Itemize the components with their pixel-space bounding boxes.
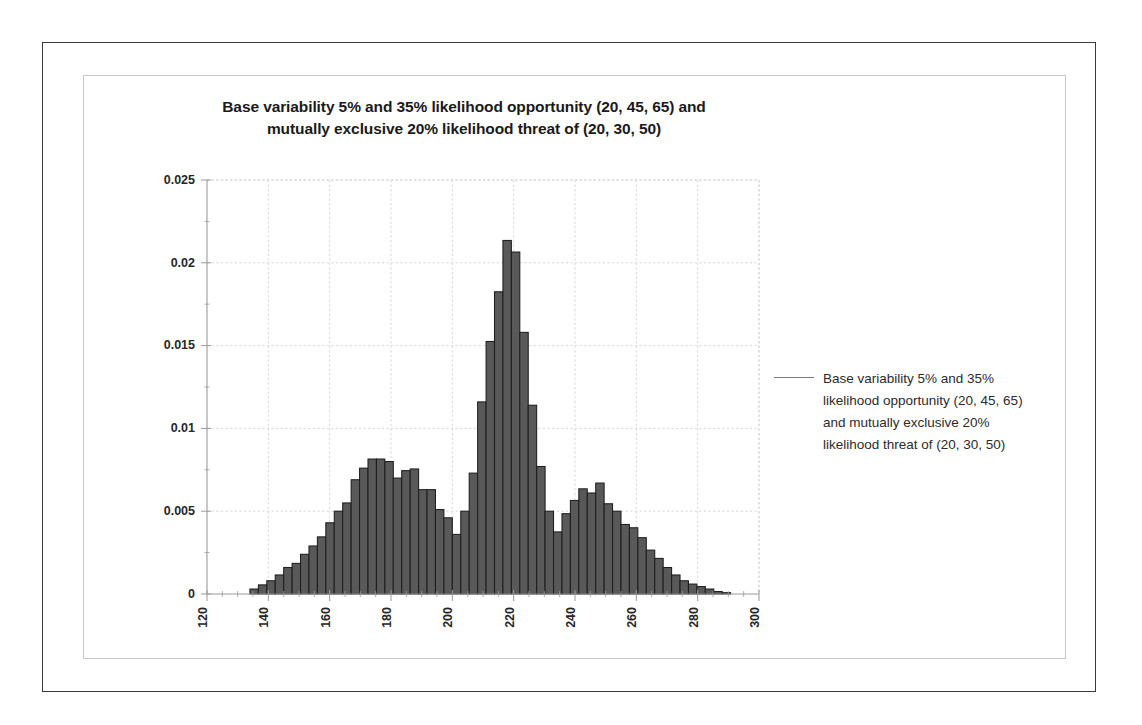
histogram-bar [326,523,334,594]
y-axis-tick-label: 0.015 [164,338,195,352]
histogram-bar [705,589,713,594]
histogram-bar [469,473,477,594]
x-axis-tick-label: 180 [380,607,394,628]
y-axis-tick-label: 0 [188,587,195,601]
chart-container: Base variability 5% and 35% likelihood o… [83,75,1066,659]
x-axis-tick-label: 260 [625,607,639,628]
histogram-bars [250,240,731,594]
histogram-bar [402,471,410,594]
histogram-bar [393,478,401,594]
histogram-bar [334,511,342,594]
x-axis-tick-label: 160 [319,607,333,628]
histogram-bar [638,538,646,594]
histogram-bar [587,493,595,594]
histogram-bar [461,511,469,594]
x-axis-tick-label: 240 [564,607,578,628]
histogram-bar [376,459,384,594]
histogram-bar [360,468,368,594]
y-axis-tick-label: 0.01 [171,421,195,435]
histogram-bar [528,405,536,594]
histogram-bar [554,532,562,594]
histogram-bar [688,584,696,594]
histogram-bar [275,575,283,594]
histogram-bar [596,483,604,594]
y-axis-tick-label: 0.005 [164,504,195,518]
histogram-bar [452,534,460,594]
y-axis-tick-labels: 00.0050.010.0150.020.025 [164,173,195,601]
x-axis-tick-label: 200 [441,607,455,628]
histogram-bar [351,480,359,594]
legend-line-marker [774,377,814,378]
histogram-bar [613,511,621,594]
histogram-bar [435,510,443,594]
x-axis-tick-label: 280 [687,607,701,628]
histogram-bar [579,489,587,594]
x-axis-tick-label: 120 [196,607,210,628]
histogram-bar [419,490,427,594]
histogram-bar [368,459,376,594]
histogram-bar [520,332,528,594]
histogram-bar [444,518,452,594]
chart-legend: Base variability 5% and 35% likelihood o… [774,368,1054,455]
histogram-bar [545,511,553,594]
histogram-bar [250,589,258,594]
histogram-bar [427,490,435,594]
x-axis-tick-label: 220 [503,607,517,628]
histogram-bar [663,568,671,595]
y-axis-tick-label: 0.02 [171,256,195,270]
histogram-bar [672,575,680,594]
histogram-bar [410,469,418,594]
histogram-bar [511,252,519,594]
x-axis-tick-label: 300 [748,607,762,628]
histogram-bar [343,503,351,594]
histogram-bar [317,537,325,594]
histogram-bar [309,546,317,594]
histogram-bar [258,585,266,594]
histogram-bar [478,402,486,594]
histogram-bar [629,528,637,594]
histogram-bar [284,568,292,595]
histogram-bar [503,240,511,594]
x-axis-tick-label: 140 [257,607,271,628]
histogram-bar [537,466,545,594]
histogram-bar [292,563,300,594]
y-axis-tick-label: 0.025 [164,173,195,187]
x-axis-tick-labels: 120140160180200220240260280300 [196,607,762,628]
histogram-bar [655,558,663,594]
legend-entry-label: Base variability 5% and 35% likelihood o… [823,368,1028,455]
histogram-bar [562,514,570,594]
histogram-bar [570,500,578,594]
document-page-frame: Base variability 5% and 35% likelihood o… [42,42,1096,692]
histogram-bar [495,292,503,594]
histogram-bar [486,341,494,594]
histogram-bar [680,581,688,594]
histogram-bar [385,462,393,594]
histogram-bar [646,550,654,594]
histogram-bar [604,504,612,594]
histogram-bar [301,554,309,594]
histogram-bar [621,524,629,594]
